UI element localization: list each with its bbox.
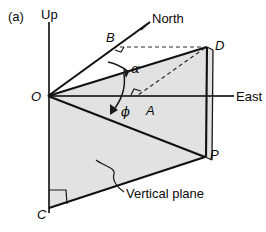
vertex-label-O: O: [31, 89, 41, 104]
north-leader-line: [141, 22, 150, 30]
vertex-label-P: P: [210, 147, 219, 162]
angle-label-alpha: α: [131, 61, 140, 76]
vertex-label-D: D: [215, 38, 224, 53]
right-angle-marker-B: [115, 47, 124, 52]
geometry-diagram: (a) Up North East O B D A P C α ϕ Vertic…: [0, 0, 266, 232]
east-axis-label: East: [236, 89, 262, 104]
north-axis-label: North: [152, 11, 184, 26]
vertex-label-C: C: [37, 207, 47, 222]
vertical-plane-label: Vertical plane: [126, 186, 204, 201]
figure-container: (a) Up North East O B D A P C α ϕ Vertic…: [0, 0, 266, 232]
vertex-label-A: A: [145, 103, 155, 118]
angle-label-phi: ϕ: [121, 104, 130, 119]
panel-label: (a): [8, 9, 24, 24]
vertex-label-B: B: [106, 30, 115, 45]
up-axis-label: Up: [41, 7, 58, 22]
edge-DP: [206, 47, 207, 157]
north-leader: [141, 22, 150, 30]
